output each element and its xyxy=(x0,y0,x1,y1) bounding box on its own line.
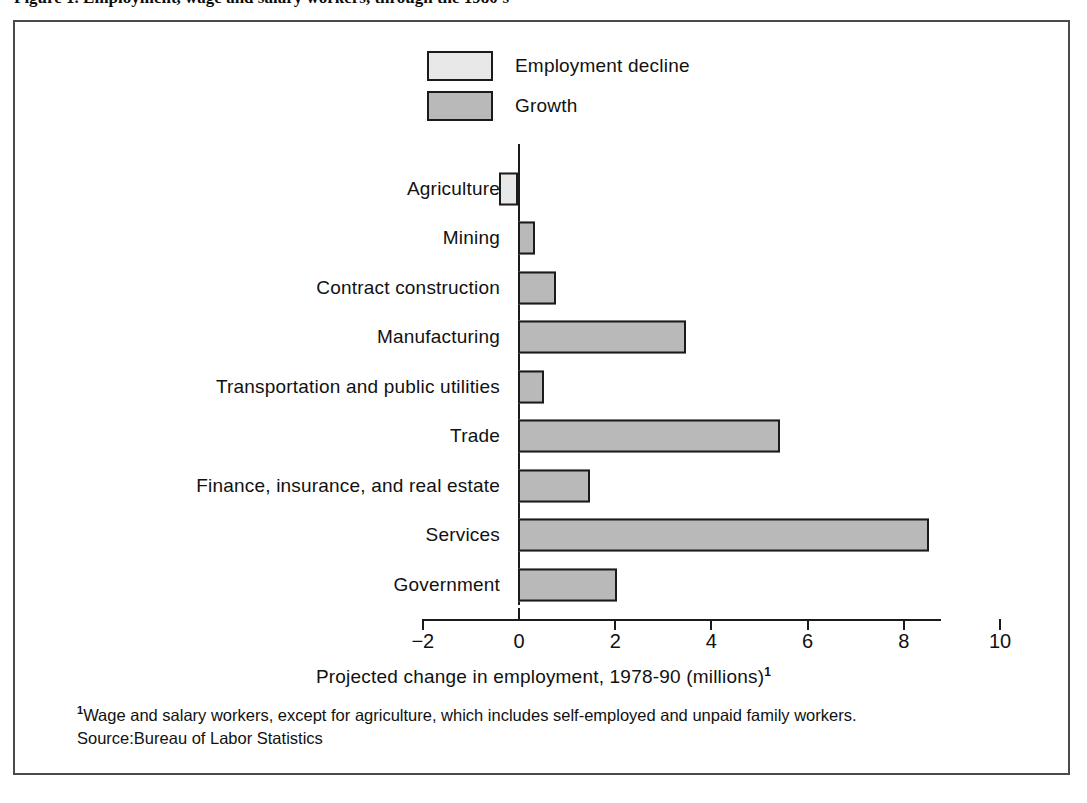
x-tick-label: 6 xyxy=(802,630,813,653)
category-label: Contract construction xyxy=(316,277,500,299)
bar-growth xyxy=(518,420,780,453)
bar-growth xyxy=(518,222,535,255)
bar-row: Manufacturing xyxy=(15,313,1072,362)
category-label: Services xyxy=(426,524,500,546)
x-axis-line xyxy=(424,619,941,621)
figure-frame: Employment decline Growth AgricultureMin… xyxy=(13,20,1070,775)
category-label: Agriculture xyxy=(407,178,500,200)
footnote-text: Wage and salary workers, except for agri… xyxy=(83,706,856,724)
bar-row: Contract construction xyxy=(15,263,1072,312)
bar-row: Transportation and public utilities xyxy=(15,362,1072,411)
bar-decline xyxy=(499,172,518,205)
x-tick-label: 2 xyxy=(610,630,621,653)
x-tick-label: 0 xyxy=(513,630,524,653)
x-tick-label: 10 xyxy=(989,630,1011,653)
bar-growth xyxy=(518,519,929,552)
bar-row: Services xyxy=(15,511,1072,560)
x-tick-mark xyxy=(903,619,905,630)
bar-growth xyxy=(518,370,544,403)
x-tick-mark xyxy=(518,608,520,620)
x-tick-mark xyxy=(422,619,424,630)
bar-row: Mining xyxy=(15,214,1072,263)
x-tick-label: −2 xyxy=(411,630,434,653)
figure-title: Figure 1. Employment, wage and salary wo… xyxy=(14,0,509,8)
source-line: Source:Bureau of Labor Statistics xyxy=(77,727,1017,750)
category-label: Trade xyxy=(450,425,500,447)
category-label: Finance, insurance, and real estate xyxy=(196,475,500,497)
category-label: Mining xyxy=(443,227,500,249)
category-label: Transportation and public utilities xyxy=(216,376,500,398)
x-tick-label: 8 xyxy=(898,630,909,653)
x-axis-title-text: Projected change in employment, 1978-90 … xyxy=(316,666,764,687)
x-axis-title: Projected change in employment, 1978-90 … xyxy=(15,665,1072,688)
x-tick-mark xyxy=(710,619,712,630)
footnote-block: 1Wage and salary workers, except for agr… xyxy=(77,703,1017,750)
bar-growth xyxy=(518,321,686,354)
x-tick-mark xyxy=(999,619,1001,630)
plot-area: AgricultureMiningContract constructionMa… xyxy=(15,22,1072,777)
bar-growth xyxy=(518,271,556,304)
x-tick-label: 4 xyxy=(706,630,717,653)
category-label: Government xyxy=(393,574,500,596)
bar-row: Agriculture xyxy=(15,164,1072,213)
bar-row: Finance, insurance, and real estate xyxy=(15,461,1072,510)
bar-row: Trade xyxy=(15,412,1072,461)
category-label: Manufacturing xyxy=(377,326,500,348)
x-tick-mark xyxy=(807,619,809,630)
bar-row: Government xyxy=(15,560,1072,609)
x-tick-mark xyxy=(614,619,616,630)
figure-title-strip: Figure 1. Employment, wage and salary wo… xyxy=(0,0,1087,14)
bar-growth xyxy=(518,568,617,601)
bar-growth xyxy=(518,469,590,502)
x-axis-title-superscript: 1 xyxy=(764,665,771,679)
